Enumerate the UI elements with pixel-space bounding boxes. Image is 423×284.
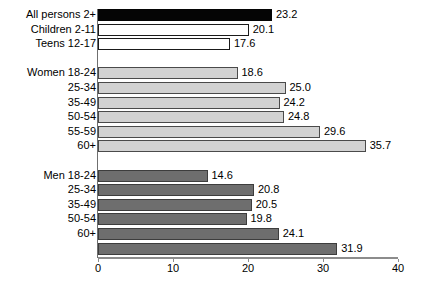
- bar-value-label: 19.8: [251, 212, 272, 225]
- bar-row: 35-4924.2: [0, 97, 423, 109]
- bar-row: 60+24.1: [0, 228, 423, 240]
- bar-category-label: 35-49: [0, 96, 96, 109]
- bar-category-label: Women 18-24: [0, 66, 96, 79]
- bar-row: 55-5929.6: [0, 126, 423, 138]
- bar-value-label: 35.7: [370, 139, 391, 152]
- bar-category-label: 50-54: [0, 110, 96, 123]
- bar-row: Children 2-1120.1: [0, 24, 423, 36]
- bar-value-label: 29.6: [324, 125, 345, 138]
- x-tick-label: 0: [78, 262, 118, 275]
- bar-category-label: 50-54: [0, 212, 96, 225]
- bar-value-label: 17.6: [234, 37, 255, 50]
- bar-row: 25-3425.0: [0, 82, 423, 94]
- bar-value-label: 24.2: [284, 96, 305, 109]
- bar-value-label: 14.6: [212, 169, 233, 182]
- bar-category-label: 25-34: [0, 183, 96, 196]
- bar-row: 50-5419.8: [0, 213, 423, 225]
- bar-row: 50-5424.8: [0, 111, 423, 123]
- bar-value-label: 20.1: [253, 23, 274, 36]
- group-spacer: [0, 53, 423, 65]
- x-tick-label: 20: [228, 262, 268, 275]
- bar-men: [98, 199, 252, 211]
- bar-overall: [98, 38, 230, 50]
- bar-women: [98, 126, 320, 138]
- x-tick-label: 30: [303, 262, 343, 275]
- bar-value-label: 24.1: [283, 227, 304, 240]
- bar-women: [98, 67, 238, 79]
- bar-men: [98, 170, 208, 182]
- group-spacer: [0, 155, 423, 167]
- bar-category-label: 60+: [0, 139, 96, 152]
- bar-category-label: Men 18-24: [0, 169, 96, 182]
- x-tick-label: 40: [378, 262, 418, 275]
- bar-value-label: 25.0: [290, 81, 311, 94]
- bar-overall: [98, 24, 249, 36]
- bar-value-label: 23.2: [276, 8, 297, 21]
- x-tick-label: 10: [153, 262, 193, 275]
- bar-value-label: 18.6: [242, 66, 263, 79]
- bar-row: 25-3420.8: [0, 184, 423, 196]
- bar-row: Men 18-2414.6: [0, 170, 423, 182]
- bar-value-label: 20.5: [256, 198, 277, 211]
- bar-overall: [98, 9, 272, 21]
- bar-men: [98, 228, 279, 240]
- bar-men: [98, 213, 247, 225]
- bar-row: Women 18-2418.6: [0, 67, 423, 79]
- bar-men: [98, 243, 337, 255]
- bar-value-label: 20.8: [258, 183, 279, 196]
- bar-category-label: Children 2-11: [0, 23, 96, 36]
- bar-category-label: 60+: [0, 227, 96, 240]
- bar-rows-container: All persons 2+23.2Children 2-1120.1Teens…: [0, 9, 423, 257]
- bar-men: [98, 184, 254, 196]
- bar-value-label: 24.8: [288, 110, 309, 123]
- bar-value-label: 31.9: [341, 242, 362, 255]
- bar-row: 60+35.7: [0, 140, 423, 152]
- bar-category-label: 55-59: [0, 125, 96, 138]
- bar-row: 31.9: [0, 243, 423, 255]
- bar-category-label: 25-34: [0, 81, 96, 94]
- plot-area: All persons 2+23.2Children 2-1120.1Teens…: [0, 0, 423, 284]
- bar-women: [98, 140, 366, 152]
- bar-chart: All persons 2+23.2Children 2-1120.1Teens…: [0, 0, 423, 284]
- bar-row: 35-4920.5: [0, 199, 423, 211]
- bar-women: [98, 111, 284, 123]
- bar-category-label: 35-49: [0, 198, 96, 211]
- bar-row: Teens 12-1717.6: [0, 38, 423, 50]
- bar-category-label: Teens 12-17: [0, 37, 96, 50]
- bar-row: All persons 2+23.2: [0, 9, 423, 21]
- bar-women: [98, 97, 280, 109]
- bar-category-label: All persons 2+: [0, 8, 96, 21]
- bar-women: [98, 82, 286, 94]
